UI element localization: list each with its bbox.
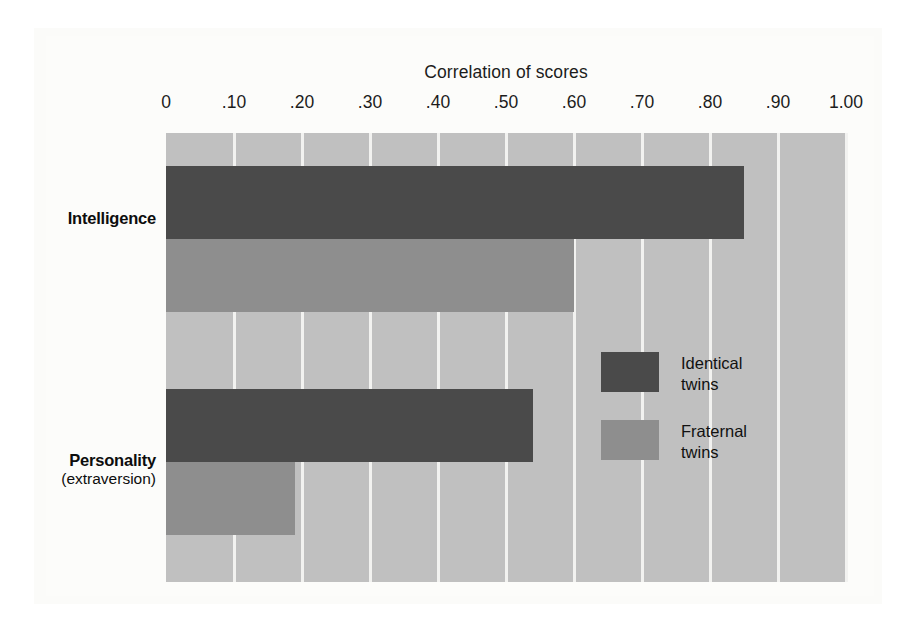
legend-label-line1: Identical <box>681 353 742 374</box>
legend-label-fraternal-twins: Fraternal twins <box>681 420 747 462</box>
x-tick-label-2: .20 <box>290 92 314 113</box>
x-axis-tick-labels: 0.10.20.30.40.50.60.70.80.901.00 <box>166 92 846 122</box>
x-tick-label-10: 1.00 <box>829 92 863 113</box>
bar-personality-identical-twins <box>166 389 533 462</box>
x-tick-label-4: .40 <box>426 92 450 113</box>
x-tick-label-3: .30 <box>358 92 382 113</box>
legend-label-line1: Fraternal <box>681 421 747 442</box>
legend-swatch-identical-twins <box>601 352 659 392</box>
legend-label-identical-twins: Identical twins <box>681 352 742 394</box>
chart-title: Correlation of scores <box>166 62 846 83</box>
legend-item-identical-twins: Identical twins <box>601 352 831 394</box>
x-tick-label-7: .70 <box>630 92 654 113</box>
category-label-intelligence: Intelligence <box>0 209 156 228</box>
gridline-10 <box>845 133 848 582</box>
bar-personality-fraternal-twins <box>166 462 295 535</box>
legend-label-line2: twins <box>681 374 742 395</box>
category-name: Intelligence <box>0 209 156 228</box>
chart-legend: Identical twins Fraternal twins <box>601 352 831 489</box>
legend-label-line2: twins <box>681 442 747 463</box>
bar-intelligence-identical-twins <box>166 166 744 239</box>
x-tick-label-8: .80 <box>698 92 722 113</box>
x-tick-label-9: .90 <box>766 92 790 113</box>
legend-swatch-fraternal-twins <box>601 420 659 460</box>
x-tick-label-0: 0 <box>161 92 171 113</box>
x-tick-label-6: .60 <box>562 92 586 113</box>
legend-item-fraternal-twins: Fraternal twins <box>601 420 831 462</box>
twin-correlation-bar-chart: Correlation of scores 0.10.20.30.40.50.6… <box>0 0 898 622</box>
bar-intelligence-fraternal-twins <box>166 239 574 312</box>
x-tick-label-1: .10 <box>222 92 246 113</box>
chart-page: Correlation of scores 0.10.20.30.40.50.6… <box>0 0 898 622</box>
x-tick-label-5: .50 <box>494 92 518 113</box>
category-subname: (extraversion) <box>0 470 156 488</box>
category-name: Personality <box>0 451 156 470</box>
category-label-personality: Personality (extraversion) <box>0 451 156 489</box>
